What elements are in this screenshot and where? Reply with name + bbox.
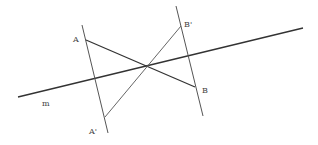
diagram-svg: A A' B B' m	[0, 0, 318, 145]
label-B-prime: B'	[184, 20, 192, 29]
line-m	[18, 28, 303, 97]
label-B: B	[202, 86, 208, 95]
perpendicular-through-A	[82, 25, 108, 133]
label-A: A	[72, 35, 79, 44]
segment-AB	[86, 40, 195, 87]
segment-A-prime-B-prime	[105, 26, 181, 117]
label-A-prime: A'	[88, 127, 97, 136]
label-m: m	[42, 99, 50, 108]
reflection-diagram: A A' B B' m	[0, 0, 318, 145]
